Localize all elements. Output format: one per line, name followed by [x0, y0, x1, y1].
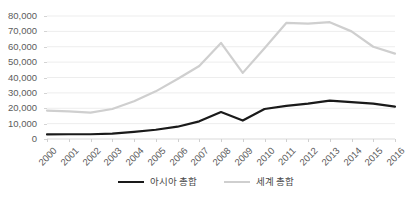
x-tick-mark — [134, 139, 135, 142]
y-tick-label: 0 — [32, 134, 37, 144]
y-tick-label: 60,000 — [8, 42, 37, 52]
x-tick-mark — [286, 139, 287, 142]
x-tick-mark — [330, 139, 331, 142]
x-tick-mark — [69, 139, 70, 142]
y-tick-label: 20,000 — [8, 103, 37, 113]
x-tick-mark — [156, 139, 157, 142]
x-tick-mark — [243, 139, 244, 142]
series-line-2 — [47, 22, 395, 112]
x-tick-mark — [112, 139, 113, 142]
legend-swatch-line-icon — [224, 181, 250, 183]
x-tick-mark — [308, 139, 309, 142]
x-tick-mark — [47, 139, 48, 142]
y-tick-label: 30,000 — [8, 88, 37, 98]
y-tick-label: 70,000 — [8, 26, 37, 36]
legend-swatch-line-icon — [118, 181, 144, 183]
plot-area — [47, 16, 395, 139]
x-tick-mark — [91, 139, 92, 142]
x-tick-mark — [352, 139, 353, 142]
y-tick-label: 10,000 — [8, 119, 37, 129]
x-tick-mark — [373, 139, 374, 142]
y-tick-label: 50,000 — [8, 57, 37, 67]
x-tick-mark — [265, 139, 266, 142]
y-tick-label: 80,000 — [8, 11, 37, 21]
legend-label: 세계 총합 — [256, 176, 295, 187]
x-tick-mark — [178, 139, 179, 142]
x-tick-mark — [221, 139, 222, 142]
series-lines — [47, 16, 395, 139]
legend-label: 아시아 총합 — [150, 176, 198, 187]
x-tick-mark — [395, 139, 396, 142]
legend-item[interactable]: 세계 총합 — [224, 176, 295, 187]
legend-item[interactable]: 아시아 총합 — [118, 176, 198, 187]
line-chart: 80,00070,00060,00050,00040,00030,00020,0… — [0, 0, 412, 200]
x-tick-mark — [199, 139, 200, 142]
chart-legend: 아시아 총합세계 총합 — [0, 176, 412, 187]
y-tick-label: 40,000 — [8, 73, 37, 83]
series-line-1 — [47, 101, 395, 135]
